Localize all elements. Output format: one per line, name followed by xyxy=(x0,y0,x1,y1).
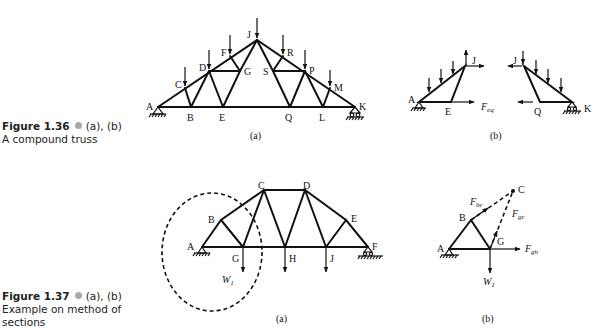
compound-truss-panel-b: A E J Feq J Q K (b) xyxy=(408,50,592,142)
member-CB xyxy=(185,88,191,107)
node-label-D: D xyxy=(303,180,310,191)
node-label-P: P xyxy=(309,65,315,76)
node-labels: A B C D E F G J K L M P Q R S xyxy=(146,29,367,123)
node-label-A: A xyxy=(437,243,445,254)
truss-members xyxy=(202,190,368,247)
node-label-G: G xyxy=(232,253,239,264)
node-label-D: D xyxy=(199,62,206,73)
method-of-sections-panel-a: A B C D E F G H J W1 (a) xyxy=(162,180,383,324)
member-GC xyxy=(243,190,264,247)
member-HD xyxy=(285,190,305,247)
node-label-R: R xyxy=(287,47,294,58)
node-label-L: L xyxy=(319,112,325,123)
applied-loads xyxy=(243,247,326,272)
member-DE xyxy=(209,71,223,107)
node-label-J: J xyxy=(472,55,476,66)
pin-support-icon xyxy=(193,247,210,256)
node-label-M: M xyxy=(334,82,343,93)
node-label-A: A xyxy=(146,101,154,112)
member-EG xyxy=(223,71,240,107)
top-chord xyxy=(202,190,368,247)
node-label-E: E xyxy=(219,112,225,123)
member-SQ xyxy=(273,71,290,107)
node-label-J: J xyxy=(513,55,517,66)
member-RS xyxy=(273,56,283,71)
truss-members xyxy=(158,40,355,107)
node-label-J: J xyxy=(330,253,334,264)
force-label-Fbc: Fbc xyxy=(469,196,484,209)
node-label-E: E xyxy=(351,213,357,224)
panel-label-b: (b) xyxy=(482,313,494,324)
member-AB xyxy=(449,220,471,249)
member-CH xyxy=(264,190,285,247)
node-label-B: B xyxy=(208,214,215,225)
node-label-S: S xyxy=(263,66,269,77)
compound-truss-panel-a: A B C D E F G J K L M P Q R S (a) xyxy=(146,18,367,142)
node-C-point xyxy=(511,189,515,193)
member-BD xyxy=(191,71,209,107)
node-label-C: C xyxy=(258,180,265,191)
force-label-Fgh: Fgh xyxy=(524,243,539,256)
member-LM xyxy=(323,88,330,107)
free-body-members xyxy=(449,220,490,249)
node-label-K: K xyxy=(584,103,592,114)
section-cut-circle xyxy=(162,193,262,311)
panel-label-a: (a) xyxy=(276,313,287,324)
node-label-G: G xyxy=(497,236,504,247)
node-label-H: H xyxy=(289,253,296,264)
node-label-G: G xyxy=(244,66,251,77)
panel-label-b: (b) xyxy=(490,130,502,142)
node-label-B: B xyxy=(459,212,466,223)
member-FG xyxy=(230,56,240,71)
method-of-sections-panel-b: A B G C Fbc Fgc Fgh W1 (b) xyxy=(437,184,539,324)
node-labels: A B C D E F G H J W1 xyxy=(187,180,378,287)
node-label-C: C xyxy=(518,184,525,195)
force-arrow-Fbc xyxy=(471,208,488,220)
member-BG xyxy=(471,220,490,249)
force-label-Feq: Feq xyxy=(480,101,494,114)
member-JE xyxy=(326,220,346,247)
node-label-B: B xyxy=(187,112,194,123)
node-label-F: F xyxy=(372,241,378,252)
node-label-E: E xyxy=(445,106,451,117)
node-label-A: A xyxy=(408,94,416,105)
roller-support-icon xyxy=(358,247,383,259)
sub-truss-AEJ xyxy=(419,66,465,102)
load-label-W1: W1 xyxy=(483,276,495,289)
node-label-K: K xyxy=(359,101,367,112)
node-label-J: J xyxy=(247,29,251,40)
roller-support-icon xyxy=(563,102,581,114)
force-arrow-Fgc xyxy=(490,231,497,249)
node-label-Q: Q xyxy=(534,106,542,117)
node-label-F: F xyxy=(221,47,227,58)
free-body-left: A E J Feq xyxy=(408,50,494,117)
member-PL xyxy=(305,71,323,107)
free-body-right: J Q K xyxy=(508,51,592,117)
member-BG xyxy=(221,220,243,247)
member-QP xyxy=(290,71,305,107)
node-label-C: C xyxy=(175,79,182,90)
load-label-W1: W1 xyxy=(222,274,234,287)
panel-label-a: (a) xyxy=(250,130,261,142)
node-label-Q: Q xyxy=(285,112,293,123)
node-label-A: A xyxy=(187,241,195,252)
force-label-Fgc: Fgc xyxy=(511,208,526,221)
